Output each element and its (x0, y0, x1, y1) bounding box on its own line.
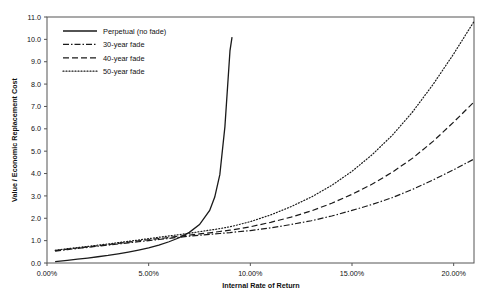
y-tick-label: 8.0 (31, 80, 41, 89)
line-chart: 0.00%5.00%10.00%15.00%20.00% 0.01.02.03.… (0, 0, 489, 295)
y-tick-label: 10.0 (27, 35, 41, 44)
y-tick-label: 1.0 (31, 236, 41, 245)
y-tick-label: 7.0 (31, 102, 41, 111)
y-tick-label: 6.0 (31, 124, 41, 133)
y-tick-label: 5.0 (31, 147, 41, 156)
y-tick-label: 0.0 (31, 259, 41, 268)
x-tick-label: 0.00% (37, 269, 58, 278)
chart-figure: 0.00%5.00%10.00%15.00%20.00% 0.01.02.03.… (0, 0, 489, 295)
x-tick-label: 20.00% (441, 269, 466, 278)
x-tick-label: 15.00% (340, 269, 365, 278)
y-axis-title: Value / Economic Replacement Cost (10, 77, 19, 201)
y-tick-label: 11.0 (28, 13, 41, 22)
legend-label-1: 30-year fade (103, 40, 145, 49)
y-tick-label: 4.0 (31, 169, 41, 178)
x-axis-title: Internal Rate of Return (222, 281, 299, 290)
legend-label-0: Perpetual (no fade) (103, 27, 166, 36)
y-tick-label: 9.0 (31, 57, 41, 66)
legend-label-3: 50-year fade (103, 67, 145, 76)
x-tick-label: 5.00% (138, 269, 159, 278)
y-tick-label: 2.0 (31, 214, 41, 223)
x-tick-label: 10.00% (238, 269, 263, 278)
legend-label-2: 40-year fade (103, 54, 145, 63)
chart-background (0, 0, 489, 295)
y-tick-label: 3.0 (31, 192, 41, 201)
